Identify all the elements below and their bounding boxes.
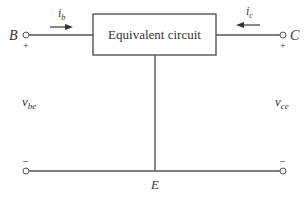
- base-terminal: [23, 32, 29, 38]
- base-current-label: ib: [58, 6, 65, 22]
- collector-minus: –: [279, 155, 286, 166]
- emitter-label: E: [150, 177, 159, 192]
- base-minus: –: [22, 155, 29, 166]
- base-plus: +: [23, 40, 29, 51]
- collector-label: C: [290, 28, 300, 43]
- circuit-diagram: Equivalent circuit B + ib C + ic – – E v…: [0, 0, 308, 199]
- collector-return-terminal: [280, 168, 286, 174]
- vbe-label: vbe: [22, 94, 36, 111]
- collector-current-label: ic: [246, 4, 253, 20]
- collector-terminal: [280, 32, 286, 38]
- vce-label: vce: [275, 94, 289, 111]
- arrow-left-icon: [236, 22, 244, 28]
- collector-plus: +: [280, 40, 286, 51]
- box-label: Equivalent circuit: [108, 27, 201, 42]
- base-return-terminal: [23, 168, 29, 174]
- arrow-right-icon: [65, 24, 73, 30]
- base-label: B: [9, 28, 18, 43]
